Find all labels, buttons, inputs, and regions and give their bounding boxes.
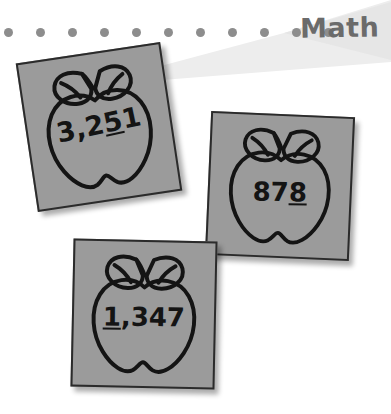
apple-card[interactable]: 1,347 [70, 239, 217, 390]
apple-number: 1,347 [74, 303, 214, 330]
divider-dot [324, 28, 333, 37]
divider-dot [228, 28, 237, 37]
divider-dot [4, 28, 13, 37]
divider-dot [132, 28, 141, 37]
divider-dot [260, 28, 269, 37]
dot-divider [0, 28, 391, 40]
number-suffix: ,347 [121, 302, 185, 333]
divider-dot [164, 28, 173, 37]
divider-dot [68, 28, 77, 37]
page-title: Math [300, 13, 380, 41]
number-underlined-digit: 8 [289, 177, 308, 207]
number-underlined-digit: 1 [103, 302, 121, 332]
apple-number: 878 [210, 178, 350, 206]
apple-card[interactable]: 3,251 [16, 42, 183, 212]
worksheet-page: Math 3,251 878 [0, 0, 391, 414]
divider-dot [100, 28, 109, 37]
number-prefix: 87 [252, 177, 289, 208]
divider-dot [36, 28, 45, 37]
apple-card[interactable]: 878 [205, 111, 355, 261]
divider-dot [292, 28, 301, 37]
divider-dot [196, 28, 205, 37]
